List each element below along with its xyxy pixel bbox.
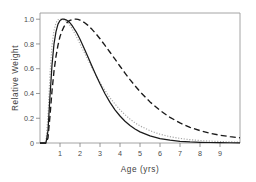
x-tick-label: 6 [158,149,162,158]
y-tick-label: 0 [30,139,34,148]
figure-container: 123456789 1.00.80.60.40.20 Age (yrs) Rel… [0,0,256,182]
x-tick-label: 2 [78,149,82,158]
data-curves [40,19,240,143]
x-tick-label: 7 [178,149,182,158]
y-tick-label: 0.4 [24,89,34,98]
x-tick-label: 1 [58,149,62,158]
y-tick-label: 1.0 [24,15,34,24]
y-axis-title: Relative Weight [11,45,20,111]
y-tick-label: 0.8 [24,40,34,49]
x-tick-label: 8 [198,149,202,158]
x-tick-label: 5 [138,149,142,158]
x-axis: 123456789 [58,143,222,158]
y-axis: 1.00.80.60.40.20 [24,15,40,148]
x-tick-label: 3 [98,149,102,158]
x-tick-label: 4 [118,149,122,158]
relative-weight-vs-age-chart: 123456789 1.00.80.60.40.20 Age (yrs) Rel… [0,0,256,182]
y-tick-label: 0.2 [24,114,34,123]
dotted-gray-curve [40,19,240,143]
dashed-black-curve [40,19,240,143]
plot-frame [40,13,240,143]
solid-black-curve [40,19,240,143]
x-axis-title: Age (yrs) [121,165,160,174]
y-tick-label: 0.6 [24,64,34,73]
x-tick-label: 9 [218,149,222,158]
